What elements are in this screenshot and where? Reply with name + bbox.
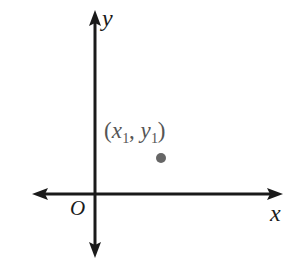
- point-label-y-var: y: [141, 118, 151, 143]
- point-label-comma: ,: [129, 118, 141, 143]
- point-label-x-var: x: [112, 118, 122, 143]
- point-coordinate-label: (x1, y1): [104, 119, 166, 142]
- coordinate-plane-figure: y x O (x1, y1): [0, 0, 296, 271]
- point-label-close-paren: ): [158, 118, 166, 143]
- plotted-point: [156, 153, 166, 163]
- y-axis-label: y: [102, 6, 113, 30]
- origin-label: O: [70, 198, 85, 219]
- x-axis-label: x: [270, 201, 281, 225]
- point-label-x-subscript: 1: [122, 130, 129, 146]
- point-label-open-paren: (: [104, 118, 112, 143]
- point-label-y-subscript: 1: [151, 130, 158, 146]
